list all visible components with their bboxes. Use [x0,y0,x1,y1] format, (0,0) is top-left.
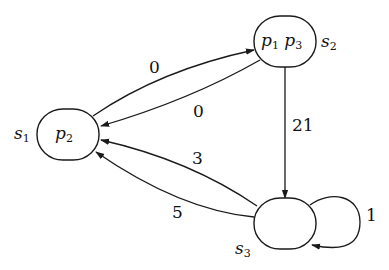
edge-label-s1-s2: 0 [149,59,160,76]
edge-label-s2-s1: 0 [193,103,204,120]
node-s3-name: s3 [235,240,251,259]
node-s2-name: s2 [321,33,337,52]
node-s1-name: s1 [14,125,30,144]
edge-label-s2-s3: 21 [292,117,314,134]
edge-s3-to-s1-3 [101,140,257,206]
edge-s1-to-s2 [93,50,254,116]
node-s3 [254,198,316,249]
edge-label-s3-s1-3: 3 [192,150,203,167]
edge-label-s3-s1-5: 5 [172,204,183,221]
node-s1-props: p2 [55,125,73,144]
edge-s2-to-s1 [101,60,260,126]
node-s2-props: p1 p3 [261,32,302,51]
edge-label-s3-loop: 1 [366,207,377,224]
edge-s3-self-loop [310,197,360,248]
